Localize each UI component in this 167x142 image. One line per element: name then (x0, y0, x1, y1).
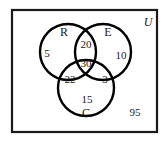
set-label-r: R (60, 26, 68, 38)
venn-diagram-figure: U R E C 5 10 20 30 22 3 15 95 (0, 0, 167, 142)
region-count-e-only: 10 (116, 50, 127, 61)
region-count-r-only: 5 (44, 48, 50, 59)
region-count-c-only: 15 (82, 94, 93, 105)
universal-set-label: U (144, 16, 153, 28)
venn-diagram-canvas (0, 0, 167, 142)
set-label-e: E (104, 26, 111, 38)
region-count-r-and-c: 22 (65, 74, 76, 85)
region-count-e-and-c: 3 (102, 74, 108, 85)
region-count-outside: 95 (130, 107, 141, 118)
region-count-all-three: 30 (81, 58, 92, 69)
region-count-r-and-e: 20 (81, 39, 92, 50)
set-label-c: C (82, 107, 90, 119)
